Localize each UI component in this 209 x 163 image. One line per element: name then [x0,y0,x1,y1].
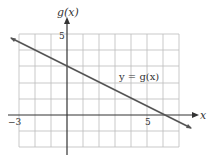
y-axis-label: g(x) [57,6,79,19]
line-arrow-icon [186,124,192,129]
grid [19,34,179,147]
x-tick-5: 5 [145,117,151,127]
y-tick-5: 5 [59,31,65,41]
line-arrow-icon [10,38,16,43]
axes [8,20,196,155]
x-axis-arrow-icon [192,112,199,118]
x-tick-neg3: −3 [8,117,22,127]
chart: g(x) x 5 −3 5 y = g(x) [0,0,209,163]
x-axis-label: x [200,109,207,122]
curve-label: y = g(x) [118,71,159,82]
